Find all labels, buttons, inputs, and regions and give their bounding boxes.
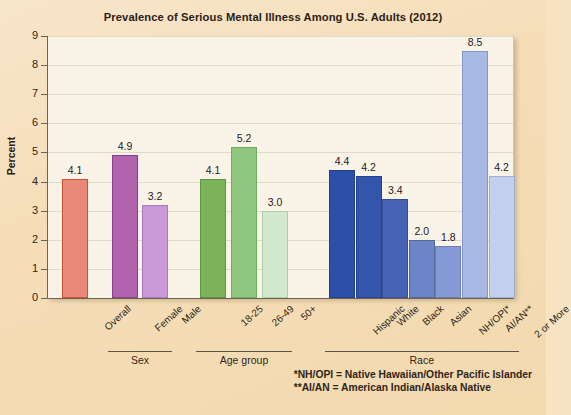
bar-value-label: 4.1 — [192, 164, 234, 176]
bar-value-label: 4.1 — [54, 164, 96, 176]
bar-ai-an[interactable] — [462, 51, 488, 298]
bar-26-49[interactable] — [231, 147, 257, 298]
bar-value-label: 4.9 — [104, 140, 146, 152]
bar-50[interactable] — [262, 211, 288, 298]
bar-hispanic[interactable] — [329, 170, 355, 298]
y-axis-tick — [41, 298, 47, 299]
bar-value-label: 4.2 — [348, 161, 390, 173]
y-axis-tick — [41, 65, 47, 66]
bar-18-25[interactable] — [200, 179, 226, 298]
footnote-aian: **AI/AN = American Indian/Alaska Native — [294, 382, 532, 395]
group-bracket-rule — [325, 351, 519, 352]
y-axis-tick — [41, 182, 47, 183]
bar-2-or-more[interactable] — [489, 176, 515, 298]
group-bracket-rule — [108, 351, 172, 352]
y-axis-tick — [41, 94, 47, 95]
bar-value-label: 3.2 — [134, 190, 176, 202]
bar-overall[interactable] — [62, 179, 88, 298]
bar-value-label: 8.5 — [454, 36, 496, 48]
group-label-sex: Sex — [108, 354, 172, 366]
group-bracket-rule — [196, 351, 292, 352]
footnotes: *NH/OPI = Native Hawaiian/Other Pacific … — [294, 369, 532, 394]
y-axis-tick — [41, 211, 47, 212]
bar-nh-opi[interactable] — [435, 246, 461, 298]
footnote-nhopi: *NH/OPI = Native Hawaiian/Other Pacific … — [294, 369, 532, 382]
bar-female[interactable] — [112, 155, 138, 298]
bar-asian[interactable] — [409, 240, 435, 298]
bar-value-label: 4.2 — [481, 161, 523, 173]
bar-male[interactable] — [142, 205, 168, 298]
group-label-race: Race — [325, 354, 519, 366]
y-axis-tick — [41, 123, 47, 124]
bar-value-label: 3.4 — [374, 184, 416, 196]
y-axis-tick — [41, 269, 47, 270]
y-axis-tick — [41, 36, 47, 37]
bar-value-label: 3.0 — [254, 196, 296, 208]
bar-value-label: 5.2 — [223, 132, 265, 144]
bar-black[interactable] — [382, 199, 408, 298]
y-axis-tick — [41, 152, 47, 153]
y-axis-tick — [41, 240, 47, 241]
group-label-age-group: Age group — [196, 354, 292, 366]
